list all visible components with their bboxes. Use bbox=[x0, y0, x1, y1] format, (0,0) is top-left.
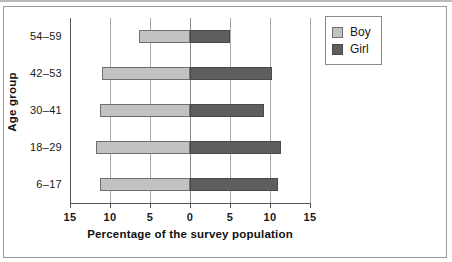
y-axis-line bbox=[70, 18, 71, 204]
legend-swatch-girl-icon bbox=[332, 44, 343, 55]
bar-girl bbox=[190, 104, 264, 117]
x-tick-label: 5 bbox=[215, 211, 245, 223]
bar-boy bbox=[102, 67, 190, 80]
legend-swatch-boy-icon bbox=[332, 27, 343, 38]
y-tick-label: 30–41 bbox=[14, 104, 62, 116]
bar-boy bbox=[100, 104, 190, 117]
x-tick-label: 15 bbox=[55, 211, 85, 223]
plot-area bbox=[70, 18, 310, 203]
bar-girl bbox=[190, 30, 230, 43]
legend-item-girl[interactable]: Girl bbox=[332, 42, 371, 56]
y-tick-label: 54–59 bbox=[14, 30, 62, 42]
x-tick-mark bbox=[190, 203, 191, 208]
legend-item-boy[interactable]: Boy bbox=[332, 25, 371, 39]
x-tick-label: 15 bbox=[295, 211, 325, 223]
chart-figure: 15105051015 54–5942–5330–4118–296–17 Per… bbox=[0, 0, 452, 262]
gridline bbox=[310, 18, 311, 203]
legend-label-girl: Girl bbox=[350, 42, 369, 56]
x-tick-label: 5 bbox=[135, 211, 165, 223]
legend-label-boy: Boy bbox=[350, 25, 371, 39]
top-divider bbox=[0, 0, 452, 2]
gridline bbox=[270, 18, 271, 203]
bar-girl bbox=[190, 67, 272, 80]
x-tick-label: 10 bbox=[95, 211, 125, 223]
x-tick-mark bbox=[270, 203, 271, 208]
x-tick-mark bbox=[150, 203, 151, 208]
y-tick-label: 6–17 bbox=[14, 178, 62, 190]
bar-girl bbox=[190, 141, 281, 154]
bar-boy bbox=[139, 30, 190, 43]
x-axis-title: Percentage of the survey population bbox=[40, 228, 340, 240]
y-axis-title: Age group bbox=[6, 42, 18, 162]
bar-boy bbox=[100, 178, 190, 191]
x-tick-mark bbox=[110, 203, 111, 208]
bar-boy bbox=[96, 141, 190, 154]
y-tick-label: 42–53 bbox=[14, 67, 62, 79]
x-tick-label: 0 bbox=[175, 211, 205, 223]
x-tick-mark bbox=[70, 203, 71, 208]
x-tick-label: 10 bbox=[255, 211, 285, 223]
bar-girl bbox=[190, 178, 278, 191]
y-tick-label: 18–29 bbox=[14, 141, 62, 153]
chart-legend: Boy Girl bbox=[325, 16, 382, 65]
x-tick-mark bbox=[310, 203, 311, 208]
x-tick-mark bbox=[230, 203, 231, 208]
